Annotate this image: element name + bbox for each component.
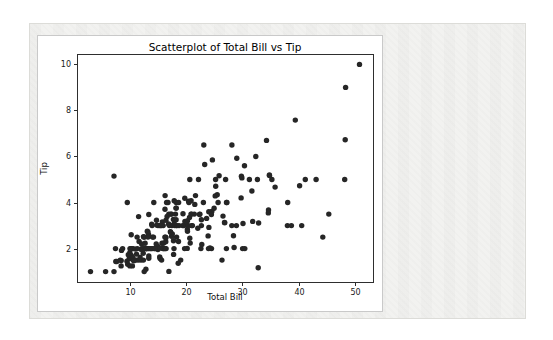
chart-title: Scatterplot of Total Bill vs Tip [77, 40, 373, 54]
scatter-plot-canvas: 1020304050246810 [38, 36, 382, 311]
svg-text:6: 6 [66, 152, 71, 161]
x-axis-label: Total Bill [77, 292, 373, 303]
y-axis-label: Tip [39, 151, 50, 187]
chart-panel: 1020304050246810 Scatterplot of Total Bi… [29, 23, 526, 319]
svg-text:10: 10 [61, 60, 71, 69]
svg-text:8: 8 [66, 106, 71, 115]
matplotlib-figure: 1020304050246810 Scatterplot of Total Bi… [37, 35, 383, 312]
svg-text:2: 2 [66, 245, 71, 254]
svg-text:4: 4 [66, 199, 71, 208]
scatter-points [88, 62, 362, 275]
